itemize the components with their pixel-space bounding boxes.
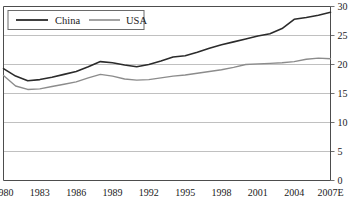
line-chart: 051015202530 198019831986198919921995199… <box>0 0 358 209</box>
chart-canvas: 051015202530 198019831986198919921995199… <box>0 0 358 209</box>
x-tick-label-1992: 1992 <box>139 187 159 198</box>
y-tick-label-0: 0 <box>338 175 343 186</box>
x-tick-label-2007E: 2007E <box>317 187 343 198</box>
legend-label-usa: USA <box>126 15 147 26</box>
y-tick-label-20: 20 <box>338 59 348 70</box>
chart-background <box>0 0 358 209</box>
y-tick-label-10: 10 <box>338 117 348 128</box>
y-tick-label-25: 25 <box>338 30 348 41</box>
chart-legend: China USA <box>8 11 147 30</box>
x-tick-label-1980: 1980 <box>0 187 14 198</box>
y-tick-label-30: 30 <box>338 1 348 12</box>
y-tick-label-15: 15 <box>338 88 348 99</box>
x-tick-label-1989: 1989 <box>103 187 123 198</box>
x-tick-label-1998: 1998 <box>212 187 232 198</box>
legend-label-china: China <box>55 15 80 26</box>
x-tick-label-1983: 1983 <box>30 187 50 198</box>
x-tick-label-1995: 1995 <box>175 187 195 198</box>
x-tick-label-2001: 2001 <box>248 187 268 198</box>
x-tick-label-2004: 2004 <box>284 187 304 198</box>
y-tick-label-5: 5 <box>338 146 343 157</box>
x-tick-label-1986: 1986 <box>66 187 86 198</box>
